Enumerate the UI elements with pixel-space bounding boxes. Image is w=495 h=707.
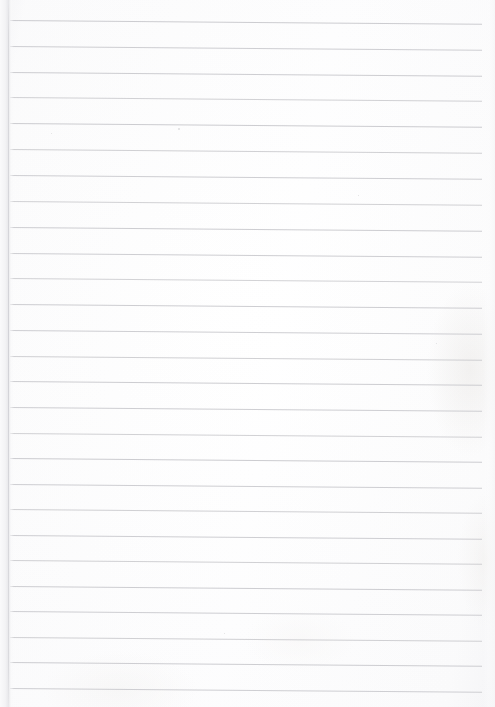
paper-surface (0, 0, 495, 707)
scanned-page (0, 0, 495, 707)
